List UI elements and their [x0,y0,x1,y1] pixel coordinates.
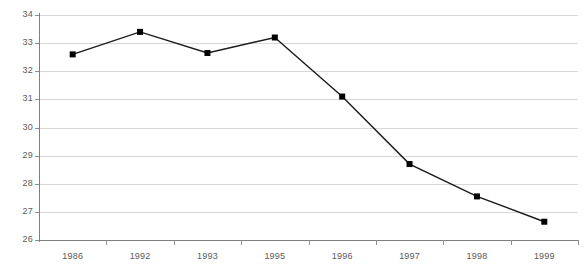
data-point-marker: 1995: 33.2 [272,35,278,41]
data-point-marker: 1997: 28.7 [407,161,413,167]
series-line [73,32,545,222]
data-point-marker: 1996: 31.1 [339,94,345,100]
data-point-marker: 1999: 26.65 [541,219,547,225]
data-point-marker: 1986: 32.6 [70,51,76,57]
line-chart: 343332313029282726 198619921993199519961… [0,0,586,273]
data-series-layer: 1986: 32.61992: 33.41993: 32.651995: 33.… [0,0,586,273]
data-point-marker: 1993: 32.65 [204,50,210,56]
data-point-marker: 1998: 27.55 [474,193,480,199]
data-point-marker: 1992: 33.4 [137,29,143,35]
